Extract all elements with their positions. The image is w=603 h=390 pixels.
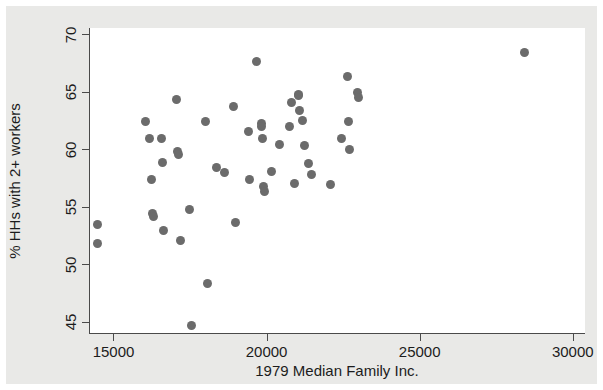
- y-tick-mark: [82, 322, 89, 323]
- y-tick-label: 45: [62, 314, 79, 331]
- data-point: [203, 279, 212, 288]
- data-point: [252, 57, 261, 66]
- y-tick-label: 60: [62, 142, 79, 159]
- y-axis-title: % HHs with 2+ workers: [6, 103, 23, 258]
- x-tick-mark: [267, 334, 268, 341]
- data-point: [287, 98, 296, 107]
- data-point: [174, 150, 183, 159]
- x-tick-mark: [573, 334, 574, 341]
- data-point: [343, 72, 352, 81]
- data-point: [93, 220, 102, 229]
- y-tick-label: 65: [62, 84, 79, 101]
- data-point: [258, 134, 267, 143]
- data-point: [231, 218, 240, 227]
- figure-canvas: 455055606570 15000200002500030000 % HHs …: [6, 6, 597, 384]
- data-point: [145, 134, 154, 143]
- x-tick-label: 25000: [399, 343, 441, 360]
- data-point: [220, 168, 229, 177]
- data-point: [326, 180, 335, 189]
- plot-area: [89, 28, 585, 334]
- data-point: [201, 117, 210, 126]
- data-point: [344, 117, 353, 126]
- data-point: [285, 122, 294, 131]
- y-tick-mark: [82, 207, 89, 208]
- data-point: [300, 141, 309, 150]
- data-point: [159, 226, 168, 235]
- data-point: [345, 145, 354, 154]
- x-axis: 15000200002500030000: [89, 334, 585, 364]
- data-point: [275, 140, 284, 149]
- data-point: [244, 127, 253, 136]
- data-point: [257, 122, 266, 131]
- x-tick-label: 30000: [552, 343, 594, 360]
- data-point-layer: [90, 28, 585, 333]
- y-tick-label: 55: [62, 199, 79, 216]
- data-point: [176, 236, 185, 245]
- data-point: [229, 102, 238, 111]
- data-point: [294, 91, 303, 100]
- data-point: [260, 187, 269, 196]
- x-axis-title: 1979 Median Family Inc.: [89, 362, 585, 379]
- x-tick-mark: [420, 334, 421, 341]
- x-tick-label: 20000: [246, 343, 288, 360]
- y-tick-label: 50: [62, 257, 79, 274]
- data-point: [157, 134, 166, 143]
- data-point: [172, 95, 181, 104]
- data-point: [141, 117, 150, 126]
- data-point: [149, 212, 158, 221]
- y-tick-mark: [82, 149, 89, 150]
- data-point: [520, 48, 529, 57]
- y-tick-mark: [82, 264, 89, 265]
- data-point: [307, 170, 316, 179]
- y-tick-mark: [82, 92, 89, 93]
- x-tick-label: 15000: [93, 343, 135, 360]
- data-point: [185, 205, 194, 214]
- data-point: [187, 321, 196, 330]
- data-point: [147, 175, 156, 184]
- data-point: [245, 175, 254, 184]
- y-tick-mark: [82, 34, 89, 35]
- data-point: [158, 158, 167, 167]
- data-point: [267, 167, 276, 176]
- data-point: [295, 106, 304, 115]
- data-point: [93, 239, 102, 248]
- data-point: [354, 93, 363, 102]
- x-tick-mark: [113, 334, 114, 341]
- scatter-plot-figure: 455055606570 15000200002500030000 % HHs …: [0, 0, 603, 390]
- y-tick-label: 70: [62, 27, 79, 44]
- data-point: [298, 116, 307, 125]
- data-point: [337, 134, 346, 143]
- data-point: [304, 159, 313, 168]
- data-point: [290, 179, 299, 188]
